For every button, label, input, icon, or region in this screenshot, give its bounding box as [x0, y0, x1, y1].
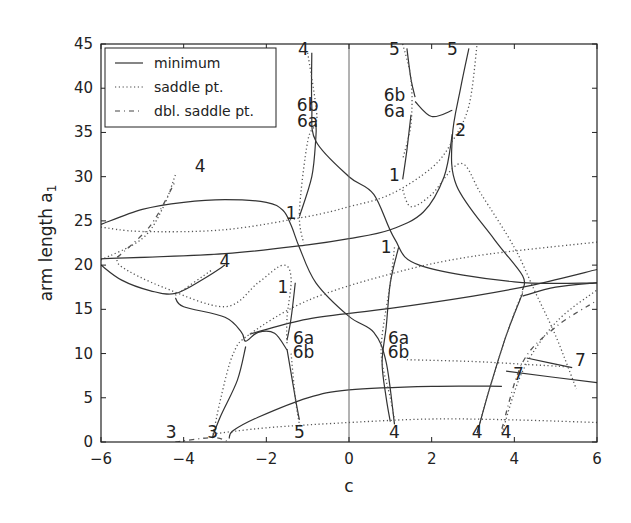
y-tick-label: 25: [74, 212, 93, 230]
y-tick-label: 0: [83, 433, 93, 451]
curve-label: 5: [294, 422, 305, 442]
curve-label: 5: [447, 39, 458, 59]
curve-dotted-30: [403, 163, 577, 389]
curve-label: 4: [195, 156, 206, 176]
curve-solid-15: [451, 48, 524, 290]
y-tick-label: 45: [74, 35, 93, 53]
curve-solid-19: [527, 358, 573, 368]
curve-label: 4: [472, 422, 483, 442]
curve-label: 6a: [297, 111, 318, 131]
curve-solid-1: [101, 200, 395, 425]
curve-label: 4: [389, 422, 400, 442]
x-tick-label: −4: [173, 450, 195, 468]
curve-label: 1: [381, 237, 392, 257]
y-axis-label-subscript: 1: [45, 185, 59, 193]
curve-label: 5: [389, 39, 400, 59]
y-tick-label: 30: [74, 168, 93, 186]
curve-label: 1: [286, 203, 297, 223]
curve-dotted-25: [213, 419, 597, 434]
y-tick-label: 10: [74, 345, 93, 363]
legend-saddle-label: saddle pt.: [154, 79, 223, 95]
y-tick-label: 20: [74, 256, 93, 274]
x-tick-label: 2: [427, 450, 437, 468]
x-axis-label: c: [344, 476, 353, 496]
curve-solid-9: [311, 53, 597, 284]
x-tick-label: 6: [592, 450, 602, 468]
y-tick-label: 5: [83, 389, 93, 407]
curve-label: 4: [298, 39, 309, 59]
curve-dotted-27: [299, 53, 317, 243]
legend: minimum saddle pt. dbl. saddle pt.: [105, 48, 276, 127]
y-tick-label: 40: [74, 79, 93, 97]
curve-dotted-31: [407, 360, 568, 367]
curve-label: 3: [166, 422, 177, 442]
phase-diagram-chart: −6−4−20246051015202530354045 46b6a41416a…: [0, 0, 631, 523]
curve-label: 1: [389, 165, 400, 185]
curve-solid-13: [415, 102, 452, 117]
curve-solid-12: [407, 48, 415, 97]
curve-solid-4: [250, 270, 597, 335]
curve-label: 4: [220, 251, 231, 271]
curve-label: 6b: [388, 342, 410, 362]
y-tick-label: 35: [74, 123, 93, 141]
curve-dotted-21: [101, 175, 175, 260]
curve-label: 6a: [384, 101, 405, 121]
y-tick-label: 15: [74, 300, 93, 318]
curve-label: 7: [575, 350, 586, 370]
curve-label: 1: [277, 277, 288, 297]
legend-minimum-label: minimum: [154, 55, 220, 71]
x-tick-label: 0: [344, 450, 354, 468]
legend-dbl-saddle-label: dbl. saddle pt.: [154, 103, 254, 119]
y-axis-label: arm length a1: [36, 185, 59, 302]
curve-label: 6b: [293, 342, 315, 362]
curve-label: 4: [501, 422, 512, 442]
curve-solid-2: [101, 265, 225, 294]
curve-dashdot-34: [118, 181, 176, 257]
x-tick-label: −6: [90, 450, 112, 468]
curve-solid-14: [403, 115, 411, 180]
curve-label: 2: [455, 120, 466, 140]
curve-solid-0: [101, 134, 452, 259]
curve-label: 7: [513, 364, 524, 384]
curve-label: 3: [207, 422, 218, 442]
x-tick-label: −2: [255, 450, 277, 468]
x-tick-label: 4: [510, 450, 520, 468]
curve-solid-8: [229, 386, 502, 438]
svg-text:arm length a1: arm length a1: [36, 185, 59, 302]
y-axis-label-text: arm length a: [36, 192, 56, 301]
